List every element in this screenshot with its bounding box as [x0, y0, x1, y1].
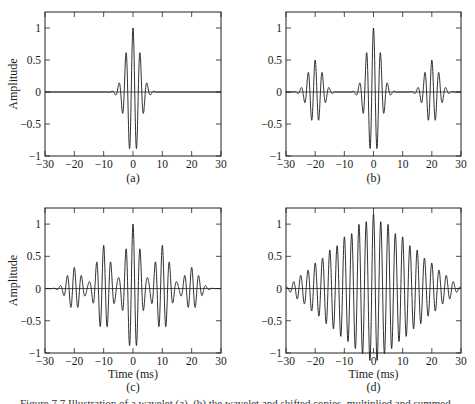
x-tick-label: 20: [186, 355, 198, 367]
signal-trace: [286, 213, 461, 360]
x-tick-label: 30: [455, 158, 467, 170]
x-tick-label: 30: [455, 355, 467, 367]
y-tick-label: −0.5: [20, 315, 41, 327]
panel-label: (c): [126, 380, 139, 394]
y-tick-label: 1: [35, 22, 41, 34]
signal-trace: [45, 28, 221, 149]
x-tick-label: 0: [130, 355, 136, 367]
y-tick-label: 1: [276, 218, 282, 230]
x-tick-label: 0: [371, 158, 377, 170]
signal-trace: [45, 224, 221, 345]
panel-c-chart: −30−20−100102030−1−0.500.51AmplitudeTime…: [6, 208, 227, 394]
signal-trace: [286, 28, 461, 149]
panel-label: (d): [367, 380, 381, 394]
x-tick-label: 10: [397, 158, 409, 170]
axes-frame: [45, 208, 221, 353]
x-tick-label: 20: [186, 158, 198, 170]
y-tick-label: 1: [276, 22, 282, 34]
x-axis-label: Time (ms): [108, 367, 158, 381]
x-tick-label: 30: [215, 158, 227, 170]
y-tick-label: 0.5: [27, 54, 42, 66]
y-tick-label: 0: [276, 86, 282, 98]
x-tick-label: −10: [335, 158, 353, 170]
figure-caption-text: Figure 7.7 Illustration of a wavelet (a)…: [20, 395, 475, 404]
panel-b-chart: −30−20−100102030−1−0.500.51(b): [261, 12, 467, 185]
panel-a-chart: −30−20−100102030−1−0.500.51Amplitude(a): [6, 12, 227, 185]
y-tick-label: 1: [35, 218, 41, 230]
y-tick-label: −1: [270, 150, 282, 162]
y-tick-label: 0: [35, 283, 41, 295]
y-tick-label: −1: [270, 347, 282, 359]
x-tick-label: 20: [426, 158, 438, 170]
x-tick-label: 10: [157, 158, 169, 170]
x-tick-label: −10: [95, 158, 113, 170]
axes-frame: [45, 12, 221, 156]
axes-frame: [286, 12, 461, 156]
y-tick-label: 0.5: [268, 54, 283, 66]
y-tick-label: 0.5: [27, 250, 42, 262]
x-tick-label: 30: [215, 355, 227, 367]
x-tick-label: −20: [65, 355, 83, 367]
x-tick-label: −20: [306, 158, 324, 170]
x-tick-label: 0: [130, 158, 136, 170]
y-tick-label: −0.5: [261, 315, 282, 327]
x-axis-label: Time (ms): [349, 367, 399, 381]
panel-label: (b): [367, 171, 381, 185]
x-tick-label: −20: [65, 158, 83, 170]
x-tick-label: 0: [371, 355, 377, 367]
x-tick-label: −10: [335, 355, 353, 367]
x-tick-label: 10: [157, 355, 169, 367]
y-axis-label: Amplitude: [6, 58, 20, 109]
x-tick-label: 10: [397, 355, 409, 367]
y-tick-label: 0: [35, 86, 41, 98]
x-tick-label: −20: [306, 355, 324, 367]
y-tick-label: −1: [29, 347, 41, 359]
panel-d-chart: −30−20−100102030−1−0.500.51Time (ms)(d): [261, 208, 467, 394]
y-axis-label: Amplitude: [6, 255, 20, 306]
axes-frame: [286, 208, 461, 353]
wavelet-figure: −30−20−100102030−1−0.500.51Amplitude(a) …: [0, 0, 475, 404]
y-tick-label: −1: [29, 150, 41, 162]
x-tick-label: −10: [95, 355, 113, 367]
panel-label: (a): [126, 171, 139, 185]
y-tick-label: −0.5: [261, 118, 282, 130]
y-tick-label: 0: [276, 283, 282, 295]
y-tick-label: 0.5: [268, 250, 283, 262]
x-tick-label: 20: [426, 355, 438, 367]
figure-caption: Figure 7.7 Illustration of a wavelet (a)…: [20, 395, 475, 404]
y-tick-label: −0.5: [20, 118, 41, 130]
